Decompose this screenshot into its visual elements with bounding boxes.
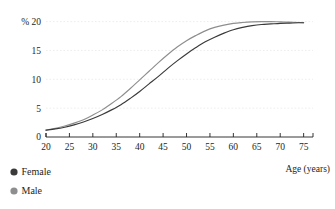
axis-lines [46,133,313,137]
x-tick-label-25: 25 [65,142,75,152]
series-line-female [46,23,304,130]
y-tick-labels: 051015% 20 [21,17,41,142]
legend-label-female: Female [22,166,52,177]
x-tick-label-75: 75 [299,142,309,152]
y-tick-label-0: 0 [36,132,41,142]
x-tick-label-60: 60 [229,142,239,152]
chart-figure: 051015% 20 202530354045505560657075 Age … [0,0,335,209]
y-tick-label-15: 15 [32,46,42,56]
x-tick-label-40: 40 [135,142,145,152]
x-tick-label-30: 30 [88,142,98,152]
tick-marks [46,133,304,137]
x-tick-label-35: 35 [112,142,122,152]
x-axis-title: Age (years) [285,164,330,175]
legend: FemaleMale [10,166,51,196]
x-tick-label-20: 20 [41,142,51,152]
series-lines [46,22,304,130]
x-tick-label-65: 65 [252,142,262,152]
x-axis-title-group: Age (years) [285,164,330,175]
legend-marker-male [10,187,17,194]
x-tick-labels: 202530354045505560657075 [41,142,308,152]
y-tick-label-20: % 20 [21,17,41,27]
legend-marker-female [10,168,17,175]
legend-label-male: Male [22,185,43,196]
gridlines [46,22,313,109]
line-chart: 051015% 20 202530354045505560657075 Age … [0,0,335,209]
y-tick-label-5: 5 [36,104,41,114]
x-tick-label-70: 70 [275,142,285,152]
x-tick-label-50: 50 [182,142,192,152]
x-tick-label-55: 55 [205,142,215,152]
y-tick-label-10: 10 [32,75,42,85]
x-tick-label-45: 45 [158,142,168,152]
series-line-male [46,22,304,130]
